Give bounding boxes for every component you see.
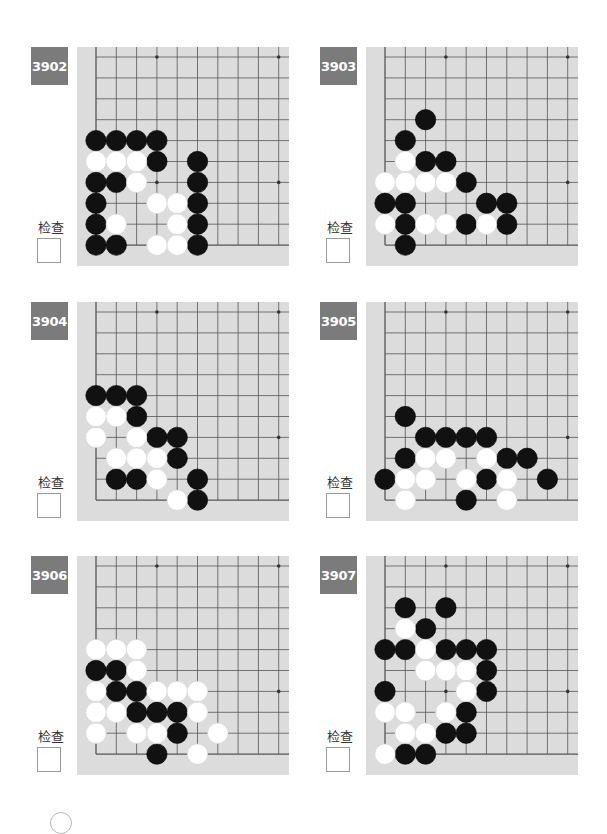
go-board[interactable]: [366, 47, 578, 266]
black-stone: [436, 598, 456, 618]
black-stone: [476, 639, 496, 659]
white-stone: [126, 151, 146, 171]
black-stone: [497, 193, 517, 213]
black-stone: [126, 406, 146, 426]
star-point: [566, 436, 570, 440]
check-answer-checkbox[interactable]: [37, 238, 61, 263]
check-answer-checkbox[interactable]: [326, 238, 350, 263]
black-stone: [126, 385, 146, 405]
black-stone: [147, 744, 167, 764]
white-stone: [86, 151, 106, 171]
go-problem-3903: 3903 检查: [320, 47, 590, 279]
black-stone: [395, 406, 415, 426]
black-stone: [167, 427, 187, 447]
star-point: [277, 55, 281, 59]
white-stone: [167, 214, 187, 234]
black-stone: [106, 660, 126, 680]
black-stone: [147, 702, 167, 722]
black-stone: [456, 490, 476, 510]
star-point: [566, 181, 570, 185]
check-label: 检查: [325, 472, 355, 491]
white-stone: [456, 681, 476, 701]
black-stone: [126, 469, 146, 489]
star-point: [277, 564, 281, 568]
white-stone: [415, 172, 435, 192]
black-stone: [436, 427, 456, 447]
go-board[interactable]: [77, 556, 289, 775]
white-stone: [147, 723, 167, 743]
black-stone: [415, 744, 435, 764]
check-answer-checkbox[interactable]: [326, 493, 350, 518]
board-grid: [366, 302, 578, 521]
go-board[interactable]: [77, 302, 289, 521]
white-stone: [86, 723, 106, 743]
black-stone: [187, 151, 207, 171]
black-stone: [147, 151, 167, 171]
star-point: [566, 310, 570, 314]
go-problem-3907: 3907 检查: [320, 556, 590, 788]
black-stone: [497, 448, 517, 468]
black-stone: [395, 448, 415, 468]
black-stone: [395, 235, 415, 255]
black-stone: [415, 110, 435, 130]
go-board[interactable]: [366, 556, 578, 775]
black-stone: [395, 744, 415, 764]
black-stone: [106, 235, 126, 255]
black-stone: [106, 130, 126, 150]
white-stone: [86, 702, 106, 722]
white-stone: [395, 151, 415, 171]
black-stone: [86, 385, 106, 405]
black-stone: [86, 193, 106, 213]
white-stone: [147, 681, 167, 701]
black-stone: [517, 448, 537, 468]
black-stone: [456, 172, 476, 192]
white-stone: [126, 427, 146, 447]
black-stone: [147, 130, 167, 150]
white-stone: [436, 660, 456, 680]
white-stone: [375, 744, 395, 764]
white-stone: [415, 469, 435, 489]
page-corner-mark: [50, 812, 72, 834]
white-stone: [395, 469, 415, 489]
star-point: [277, 310, 281, 314]
white-stone: [395, 619, 415, 639]
black-stone: [126, 130, 146, 150]
black-stone: [106, 681, 126, 701]
black-stone: [395, 214, 415, 234]
white-stone: [395, 490, 415, 510]
white-stone: [187, 744, 207, 764]
white-stone: [126, 448, 146, 468]
black-stone: [187, 193, 207, 213]
check-answer-checkbox[interactable]: [326, 747, 350, 772]
black-stone: [86, 214, 106, 234]
problem-number: 3903: [320, 47, 357, 85]
star-point: [444, 310, 448, 314]
white-stone: [126, 723, 146, 743]
white-stone: [476, 214, 496, 234]
black-stone: [106, 469, 126, 489]
problem-number: 3905: [320, 302, 357, 340]
white-stone: [415, 660, 435, 680]
black-stone: [456, 214, 476, 234]
problem-number: 3902: [31, 47, 68, 85]
black-stone: [106, 172, 126, 192]
black-stone: [167, 723, 187, 743]
white-stone: [167, 681, 187, 701]
white-stone: [436, 702, 456, 722]
white-stone: [147, 235, 167, 255]
black-stone: [86, 235, 106, 255]
white-stone: [436, 448, 456, 468]
go-board[interactable]: [366, 302, 578, 521]
white-stone: [106, 214, 126, 234]
board-grid: [77, 556, 289, 775]
black-stone: [415, 619, 435, 639]
white-stone: [86, 681, 106, 701]
black-stone: [537, 469, 557, 489]
white-stone: [415, 214, 435, 234]
check-answer-checkbox[interactable]: [37, 747, 61, 772]
black-stone: [375, 193, 395, 213]
check-answer-checkbox[interactable]: [37, 493, 61, 518]
white-stone: [86, 427, 106, 447]
go-board[interactable]: [77, 47, 289, 266]
star-point: [155, 55, 159, 59]
